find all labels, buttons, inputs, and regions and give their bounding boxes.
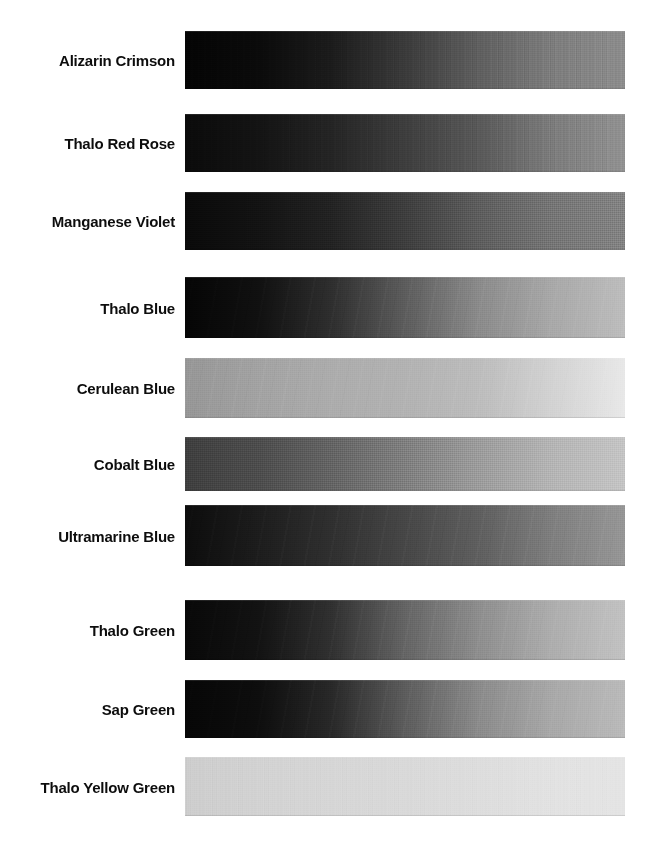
- swatch-row: Thalo Blue: [0, 277, 657, 338]
- swatch-row: Cerulean Blue: [0, 358, 657, 418]
- swatch-label: Thalo Red Rose: [64, 136, 175, 151]
- swatch-label: Thalo Blue: [100, 300, 175, 315]
- swatch-label: Thalo Green: [90, 623, 175, 638]
- swatch-gradient-bar: [185, 277, 625, 338]
- swatch-label: Thalo Yellow Green: [41, 779, 176, 794]
- pigment-value-chart: Alizarin CrimsonThalo Red RoseManganese …: [0, 0, 657, 852]
- swatch-label: Cerulean Blue: [77, 381, 175, 396]
- swatch-gradient-bar: [185, 757, 625, 816]
- swatch-gradient-fill: [185, 505, 625, 566]
- swatch-gradient-fill: [185, 437, 625, 491]
- swatch-gradient-bar: [185, 680, 625, 738]
- swatch-row: Manganese Violet: [0, 192, 657, 250]
- swatch-row: Thalo Green: [0, 600, 657, 660]
- swatch-label: Alizarin Crimson: [59, 53, 175, 68]
- swatch-gradient-fill: [185, 277, 625, 338]
- swatch-gradient-fill: [185, 358, 625, 418]
- swatch-gradient-bar: [185, 437, 625, 491]
- swatch-gradient-fill: [185, 31, 625, 89]
- swatch-gradient-fill: [185, 600, 625, 660]
- swatch-gradient-bar: [185, 600, 625, 660]
- swatch-label: Cobalt Blue: [94, 457, 175, 472]
- swatch-label: Ultramarine Blue: [58, 528, 175, 543]
- swatch-gradient-bar: [185, 358, 625, 418]
- swatch-gradient-bar: [185, 31, 625, 89]
- swatch-gradient-bar: [185, 505, 625, 566]
- swatch-gradient-fill: [185, 680, 625, 738]
- swatch-row: Ultramarine Blue: [0, 505, 657, 566]
- swatch-gradient-fill: [185, 192, 625, 250]
- swatch-gradient-bar: [185, 114, 625, 172]
- swatch-gradient-fill: [185, 757, 625, 816]
- swatch-row: Thalo Yellow Green: [0, 757, 657, 816]
- swatch-row: Thalo Red Rose: [0, 114, 657, 172]
- swatch-gradient-bar: [185, 192, 625, 250]
- swatch-label: Sap Green: [102, 702, 175, 717]
- swatch-row: Sap Green: [0, 680, 657, 738]
- swatch-row: Cobalt Blue: [0, 437, 657, 491]
- swatch-label: Manganese Violet: [52, 214, 175, 229]
- swatch-gradient-fill: [185, 114, 625, 172]
- swatch-row: Alizarin Crimson: [0, 31, 657, 89]
